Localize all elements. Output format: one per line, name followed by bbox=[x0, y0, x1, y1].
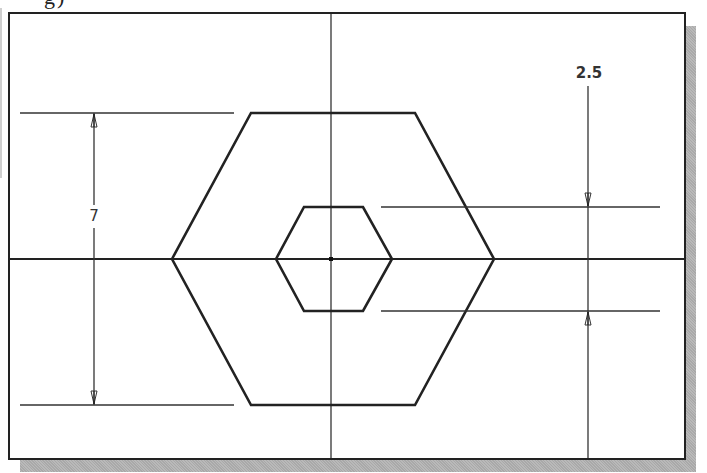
arrow-up-icon bbox=[91, 114, 97, 127]
sketch-canvas[interactable]: 7 2.5 bbox=[0, 0, 707, 473]
arrow-down-icon bbox=[585, 193, 591, 206]
arrow-up-icon bbox=[585, 312, 591, 325]
center-point[interactable] bbox=[329, 257, 333, 261]
dimension-label-inner[interactable]: 2.5 bbox=[576, 64, 603, 82]
dimension-label-outer[interactable]: 7 bbox=[89, 207, 99, 225]
arrow-down-icon bbox=[91, 391, 97, 404]
